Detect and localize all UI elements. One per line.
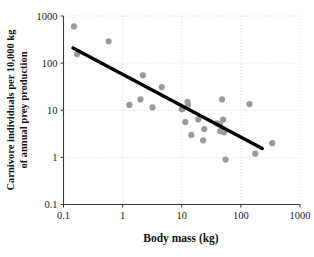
- data-points: [71, 23, 276, 162]
- data-point: [126, 102, 132, 108]
- y-axis-title-line-2: of annual prey production: [18, 51, 29, 168]
- data-point: [71, 23, 77, 29]
- data-point: [149, 104, 155, 110]
- y-tick-label: 100: [42, 58, 58, 69]
- data-point: [182, 119, 188, 125]
- y-tick-labels: 0.11101001000: [37, 11, 58, 211]
- data-point: [201, 126, 207, 132]
- data-point: [252, 151, 258, 157]
- y-tick-label: 0.1: [44, 199, 57, 210]
- x-tick-label: 1000: [290, 210, 311, 221]
- chart-figure: 0.11101001000 0.11101001000 Body mass (k…: [0, 0, 314, 257]
- x-tick-labels: 0.11101001000: [57, 210, 311, 221]
- scatter-plot: 0.11101001000 0.11101001000 Body mass (k…: [0, 0, 314, 257]
- y-axis-title-line-1: Carnivore individuals per 10,000 kg: [5, 29, 16, 191]
- y-tick-label: 10: [47, 105, 58, 116]
- x-tick-label: 1: [120, 210, 125, 221]
- x-tick-label: 100: [233, 210, 249, 221]
- data-point: [137, 96, 143, 102]
- y-tick-label: 1: [52, 152, 57, 163]
- x-tick-label: 0.1: [57, 210, 70, 221]
- x-axis-title: Body mass (kg): [143, 232, 219, 245]
- data-point: [159, 84, 165, 90]
- data-point: [200, 137, 206, 143]
- data-point: [106, 38, 112, 44]
- data-point: [188, 132, 194, 138]
- data-point: [220, 117, 226, 123]
- data-point: [269, 140, 275, 146]
- data-point: [219, 96, 225, 102]
- data-point: [246, 101, 252, 107]
- y-tick-label: 1000: [37, 11, 58, 22]
- x-tick-label: 10: [177, 210, 188, 221]
- data-point: [140, 72, 146, 78]
- trend-line: [73, 48, 262, 148]
- data-point: [222, 156, 228, 162]
